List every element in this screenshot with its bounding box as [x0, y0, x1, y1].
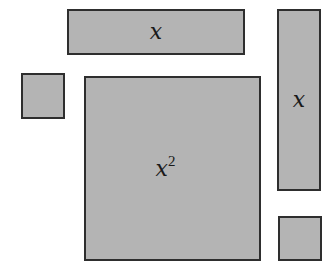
x-squared-label: x2	[156, 156, 176, 180]
exponent-label: 2	[168, 153, 176, 169]
x-tile-vertical: x	[277, 9, 321, 191]
x-label: x	[150, 21, 162, 43]
unit-tile-left	[21, 73, 65, 119]
x-label: x	[293, 89, 305, 111]
unit-tile-bottom-right	[278, 216, 322, 261]
x-tile-horizontal: x	[67, 9, 245, 55]
x-squared-tile: x2	[84, 76, 261, 261]
base-label: x	[156, 157, 168, 182]
